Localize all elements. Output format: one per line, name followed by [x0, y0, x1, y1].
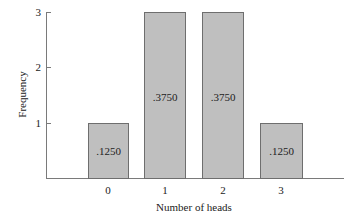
y-tick-2: [46, 67, 51, 68]
x-axis-label: Number of heads: [114, 201, 274, 214]
bar-3: .1250: [260, 123, 303, 179]
x-tick-label: 3: [271, 184, 291, 196]
frequency-bar-chart: 1 2 3 Frequency .1250 .3750 .3750 .1250 …: [0, 0, 358, 219]
y-tick-1: [46, 123, 51, 124]
bar-1: .3750: [144, 12, 186, 179]
bar-value-label: .3750: [145, 91, 185, 103]
y-axis-label: Frequency: [16, 55, 29, 135]
x-tick-label: 1: [155, 184, 175, 196]
y-tick-label: 2: [29, 61, 41, 73]
y-axis: [46, 12, 47, 179]
bar-value-label: .3750: [203, 91, 243, 103]
bar-value-label: .1250: [261, 145, 302, 157]
bar-2: .3750: [202, 12, 244, 179]
y-tick-label: 1: [29, 117, 41, 129]
y-tick-3: [46, 12, 51, 13]
x-tick-label: 2: [213, 184, 233, 196]
y-tick-label: 3: [29, 6, 41, 18]
x-tick-label: 0: [98, 184, 118, 196]
bar-0: .1250: [88, 123, 129, 179]
bar-value-label: .1250: [89, 145, 128, 157]
